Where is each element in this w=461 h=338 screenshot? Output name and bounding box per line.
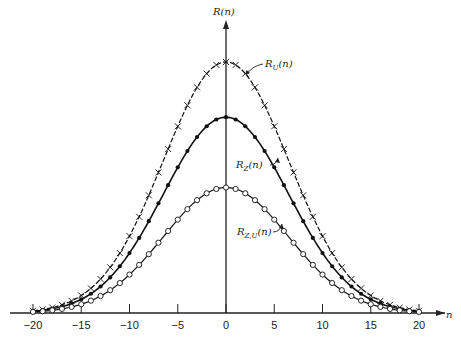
circle-marker-icon <box>407 309 412 314</box>
dot-marker-icon <box>127 251 131 255</box>
circle-marker-icon <box>59 306 64 311</box>
dot-marker-icon <box>224 115 228 119</box>
dot-marker-icon <box>185 149 189 153</box>
circle-marker-icon <box>378 304 383 309</box>
x-tick-label: 20 <box>413 319 425 331</box>
x-marker-icon <box>107 264 113 270</box>
x-marker-icon <box>155 169 161 175</box>
x-marker-icon <box>175 123 181 129</box>
dot-marker-icon <box>349 284 353 288</box>
circle-marker-icon <box>262 207 267 212</box>
circle-marker-icon <box>166 228 171 233</box>
dot-marker-icon <box>320 251 324 255</box>
circle-marker-icon <box>339 288 344 293</box>
circle-marker-icon <box>79 302 84 307</box>
y-axis-arrow-icon <box>223 20 229 29</box>
circle-marker-icon <box>108 288 113 293</box>
circle-marker-icon <box>175 217 180 222</box>
dot-marker-icon <box>311 236 315 240</box>
circle-marker-icon <box>117 280 122 285</box>
x-marker-icon <box>213 62 219 68</box>
circle-marker-icon <box>349 293 354 298</box>
dot-marker-icon <box>359 292 363 296</box>
x-marker-icon <box>252 84 258 90</box>
x-marker-icon <box>271 123 277 129</box>
x-marker-icon <box>310 214 316 220</box>
x-tick-label: −5 <box>171 319 184 331</box>
x-marker-icon <box>165 146 171 152</box>
x-marker-icon <box>127 233 133 239</box>
circle-marker-icon <box>40 309 45 314</box>
x-tick-label: 15 <box>365 319 377 331</box>
label-rz: RZ(n) <box>235 159 263 173</box>
circle-marker-icon <box>98 293 103 298</box>
dot-marker-icon <box>166 183 170 187</box>
x-marker-icon <box>98 276 104 282</box>
circle-marker-icon <box>137 262 142 267</box>
circle-marker-icon <box>272 217 277 222</box>
dot-marker-icon <box>89 292 93 296</box>
dot-marker-icon <box>214 117 218 121</box>
circle-marker-icon <box>320 272 325 277</box>
dot-marker-icon <box>137 236 141 240</box>
x-marker-icon <box>262 102 268 108</box>
circle-marker-icon <box>387 306 392 311</box>
dot-marker-icon <box>147 219 151 223</box>
x-marker-icon <box>358 285 364 291</box>
circle-marker-icon <box>233 186 238 191</box>
x-tick-label: 10 <box>316 319 328 331</box>
circle-marker-icon <box>416 309 421 314</box>
dot-marker-icon <box>330 264 334 268</box>
x-marker-icon <box>88 285 94 291</box>
x-tick-label: −20 <box>24 319 43 331</box>
y-axis-label: R(n) <box>212 6 235 17</box>
circle-marker-icon <box>397 308 402 313</box>
circle-marker-icon <box>330 280 335 285</box>
x-tick-label: −15 <box>72 319 91 331</box>
circle-marker-icon <box>223 185 228 190</box>
dot-marker-icon <box>108 275 112 279</box>
circle-marker-icon <box>50 308 55 313</box>
circle-marker-icon <box>310 262 315 267</box>
dot-marker-icon <box>340 275 344 279</box>
x-marker-icon <box>300 192 306 198</box>
dot-marker-icon <box>291 201 295 205</box>
gaussian-correlation-chart: −20−15−10−505101520 R(n) n RU(n) RZ(n) R… <box>0 0 461 338</box>
circle-marker-icon <box>30 309 35 314</box>
axes: −20−15−10−505101520 <box>10 20 445 331</box>
dot-marker-icon <box>301 219 305 223</box>
dot-marker-icon <box>98 284 102 288</box>
x-axis-arrow-icon <box>436 310 445 316</box>
circle-marker-icon <box>88 298 93 303</box>
circle-marker-icon <box>204 191 209 196</box>
x-marker-icon <box>204 71 210 77</box>
dot-marker-icon <box>263 149 267 153</box>
label-rzu: RZ,U(n) <box>236 226 272 240</box>
dot-marker-icon <box>243 124 247 128</box>
dot-marker-icon <box>253 135 257 139</box>
circle-marker-icon <box>368 302 373 307</box>
label-ru: RU(n) <box>264 58 293 72</box>
x-marker-icon <box>146 192 152 198</box>
x-marker-icon <box>329 250 335 256</box>
circle-marker-icon <box>359 298 364 303</box>
dot-marker-icon <box>282 183 286 187</box>
x-tick-label: −10 <box>120 319 139 331</box>
x-marker-icon <box>184 102 190 108</box>
x-marker-icon <box>194 84 200 90</box>
x-marker-icon <box>348 276 354 282</box>
circle-marker-icon <box>127 272 132 277</box>
dot-marker-icon <box>234 117 238 121</box>
dot-marker-icon <box>118 264 122 268</box>
circle-marker-icon <box>156 240 161 245</box>
x-marker-icon <box>233 62 239 68</box>
annotations: R(n) n RU(n) RZ(n) RZ,U(n) <box>212 6 452 320</box>
circle-marker-icon <box>243 191 248 196</box>
x-tick-label: 5 <box>271 319 277 331</box>
dot-marker-icon <box>205 124 209 128</box>
dot-marker-icon <box>369 297 373 301</box>
x-marker-icon <box>320 233 326 239</box>
circle-marker-icon <box>291 240 296 245</box>
circle-marker-icon <box>252 198 257 203</box>
circle-marker-icon <box>146 252 151 257</box>
